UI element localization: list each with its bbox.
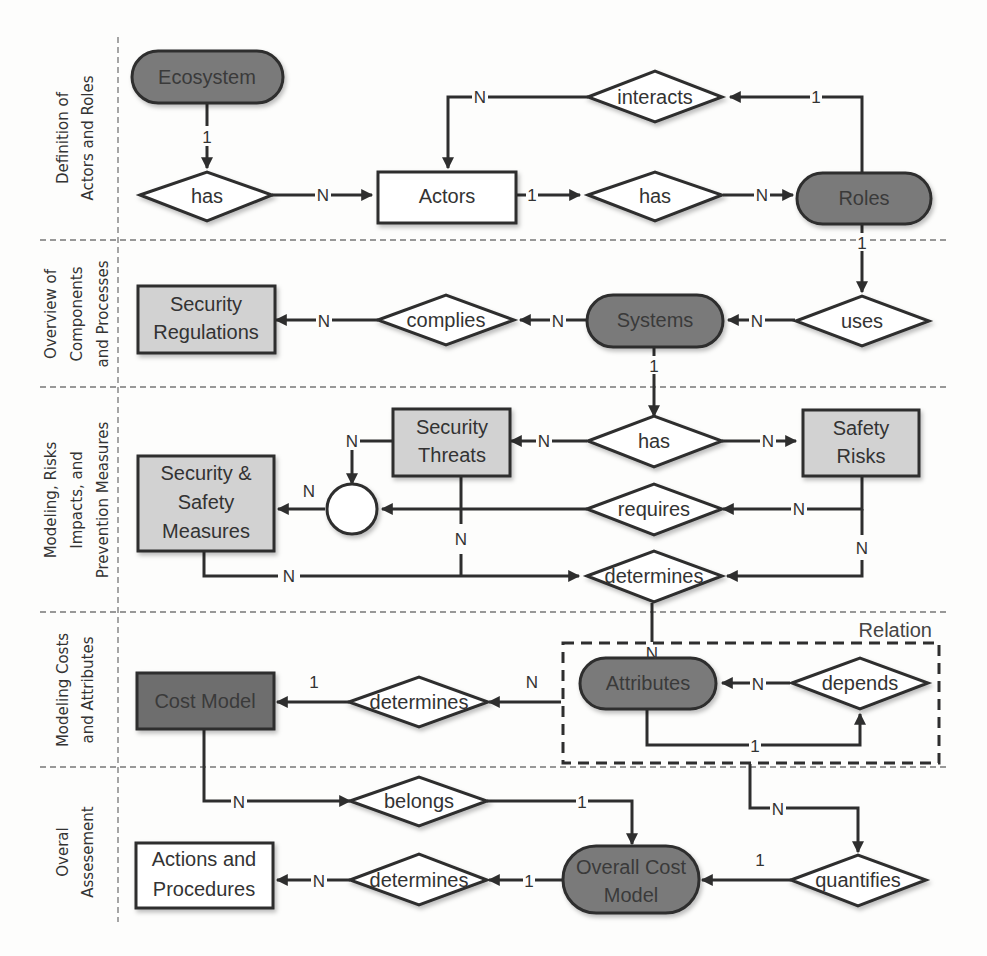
cardinality: N <box>455 530 467 549</box>
lane-label-line: and Processes <box>94 260 112 367</box>
entity-label: Measures <box>162 520 250 542</box>
cardinality: 1 <box>202 128 211 147</box>
lane-label-line: Definition of <box>54 91 72 184</box>
cardinality: 1 <box>524 872 533 891</box>
edge-interacts-actors <box>448 97 588 168</box>
lane-label-actors-roles: Definition of Actors and Roles <box>54 75 97 200</box>
cardinality: N <box>313 872 325 891</box>
entity-label: Actors <box>419 185 476 207</box>
rel-label: interacts <box>617 86 693 108</box>
lane-label-line: Modeling Costs <box>54 633 72 747</box>
lane-label-assessment: Overal Assesement <box>54 806 97 898</box>
rel-label: belongs <box>384 790 454 812</box>
entity-label: Risks <box>837 445 886 467</box>
cardinality: N <box>762 432 774 451</box>
entity-label: Security & <box>160 462 252 484</box>
entity-label: Ecosystem <box>158 66 256 88</box>
lane-label-line: Prevention Measures <box>94 422 112 579</box>
lane-label-line: Modeling, Risks <box>42 441 60 558</box>
cardinality: N <box>751 312 763 331</box>
cardinality: N <box>303 482 315 501</box>
rel-label: determines <box>370 691 469 713</box>
cardinality: N <box>526 673 538 692</box>
cardinality: 1 <box>750 737 759 756</box>
lane-label-line: Assesement <box>79 806 97 898</box>
entity-label: Roles <box>838 187 889 209</box>
lane-label-line: Impacts, and <box>68 451 86 548</box>
entity-label: Safety <box>833 417 890 439</box>
lane-label-components: Overview of Components and Processes <box>42 260 112 367</box>
cardinality: N <box>283 567 295 586</box>
lane-label-line: Overal <box>54 827 72 876</box>
cardinality: N <box>233 793 245 812</box>
cardinality: N <box>538 432 550 451</box>
cardinality: N <box>474 88 486 107</box>
rel-label: complies <box>407 309 486 331</box>
cardinality: 1 <box>649 357 658 376</box>
lane-label-line: Overview of <box>42 268 60 359</box>
entity-label: Actions and <box>152 848 257 870</box>
edge-roles-interacts <box>730 97 862 173</box>
entity-label: Procedures <box>153 878 255 900</box>
entity-label: Safety <box>178 491 235 513</box>
edge-risks-determines <box>727 560 862 576</box>
entity-label: Cost Model <box>154 690 255 712</box>
rel-label: has <box>638 430 670 452</box>
rel-label: has <box>191 185 223 207</box>
rel-label: has <box>639 185 671 207</box>
lane-label-risks: Modeling, Risks Impacts, and Prevention … <box>42 422 112 579</box>
er-diagram: Definition of Actors and Roles Overview … <box>0 0 987 956</box>
cardinality: 1 <box>309 673 318 692</box>
cardinality: N <box>552 312 564 331</box>
cardinality: 1 <box>811 88 820 107</box>
entity-label: Security <box>416 416 488 438</box>
edge-belongs-overall <box>487 801 632 844</box>
rel-label: requires <box>618 498 690 520</box>
cardinality: N <box>346 432 358 451</box>
join-circle <box>327 484 377 534</box>
cardinality: 1 <box>755 851 764 870</box>
lane-label-line: and Attributes <box>79 636 97 743</box>
cardinality: N <box>752 675 764 694</box>
relation-group-label: Relation <box>859 619 932 641</box>
lane-label-costs: Modeling Costs and Attributes <box>54 633 97 747</box>
cardinality: N <box>318 312 330 331</box>
lane-label-line: Actors and Roles <box>79 75 97 200</box>
cardinality: N <box>756 186 768 205</box>
entity-label: Systems <box>617 309 694 331</box>
entity-label: Model <box>604 884 658 906</box>
cardinality: 1 <box>577 793 586 812</box>
entity-label: Attributes <box>606 672 690 694</box>
rel-label: determines <box>605 565 704 587</box>
rel-label: uses <box>841 310 883 332</box>
entity-label: Security <box>170 293 242 315</box>
entity-label: Overall Cost <box>576 856 686 878</box>
edge-costmodel-belongs <box>204 730 350 801</box>
edge-attributes-quantifies <box>750 764 858 852</box>
rel-label: determines <box>370 869 469 891</box>
cardinality: N <box>793 500 805 519</box>
cardinality: N <box>317 186 329 205</box>
cardinality: 1 <box>527 186 536 205</box>
rel-label: depends <box>822 672 899 694</box>
cardinality: 1 <box>857 234 866 253</box>
cardinality: N <box>856 539 868 558</box>
cardinality-labels: 1 N N 1 1 N 1 N N N 1 N N N N N N N N N <box>200 88 868 891</box>
entity-label: Threats <box>418 444 486 466</box>
cardinality: N <box>646 644 658 663</box>
lane-label-line: Components <box>68 266 86 361</box>
entity-label: Regulations <box>153 321 259 343</box>
rel-label: quantifies <box>815 869 901 891</box>
cardinality: N <box>772 800 784 819</box>
